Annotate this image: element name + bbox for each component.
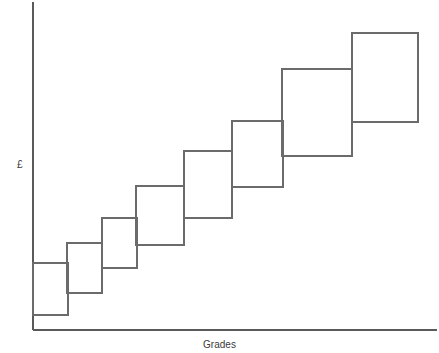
step-box-1: [33, 263, 68, 315]
step-box-5: [184, 151, 232, 218]
step-box-6: [232, 121, 283, 187]
step-box-7: [282, 69, 352, 156]
step-box-2: [67, 243, 102, 293]
step-boxes-group: [33, 33, 418, 315]
chart-plot-area: [0, 0, 439, 353]
y-axis-label: £: [17, 159, 23, 171]
step-box-4: [136, 186, 184, 245]
step-box-8: [352, 33, 418, 122]
chart-figure: £ Grades: [0, 0, 439, 353]
step-box-3: [102, 218, 137, 268]
x-axis-label: Grades: [0, 339, 439, 351]
